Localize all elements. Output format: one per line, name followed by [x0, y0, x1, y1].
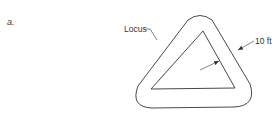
locus-diagram: Locus 10 ft: [0, 0, 279, 140]
distance-label: 10 ft: [255, 36, 272, 46]
locus-label: Locus: [124, 24, 147, 34]
distance-leader-arrow: [238, 41, 254, 50]
inner-arrow: [200, 61, 219, 70]
locus-leader-line: [146, 29, 157, 40]
inner-triangle: [151, 31, 235, 89]
locus-outline: [136, 16, 252, 109]
